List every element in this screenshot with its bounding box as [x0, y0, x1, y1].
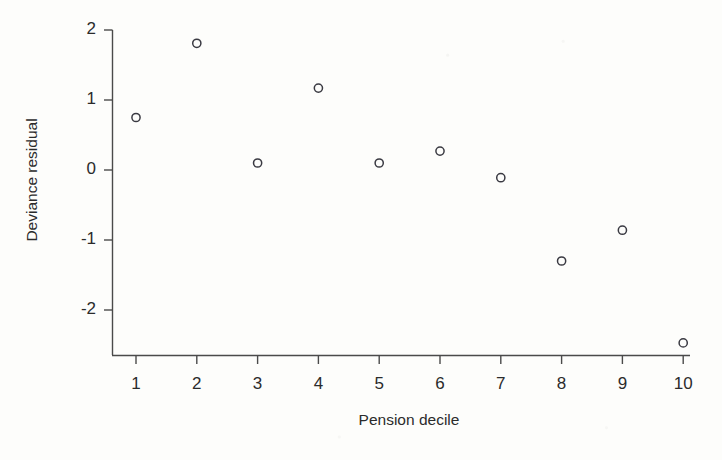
x-tick-label-5: 5	[374, 374, 383, 393]
y-tick-label-0: 0	[87, 159, 96, 178]
scatter-plot-figure: 2 1 0 -1 -2 Deviance residual 1 2 3 4 5	[0, 0, 722, 460]
y-axis-title: Deviance residual	[23, 118, 40, 241]
x-tick-label-2: 2	[192, 374, 201, 393]
x-tick-label-6: 6	[435, 374, 444, 393]
y-tick-label-2: 2	[87, 19, 96, 38]
x-tick-label-4: 4	[314, 374, 323, 393]
y-tick-label-neg1: -1	[81, 229, 96, 248]
chart-canvas: 2 1 0 -1 -2 Deviance residual 1 2 3 4 5	[0, 0, 722, 460]
x-tick-label-3: 3	[253, 374, 262, 393]
y-tick-label-neg2: -2	[81, 299, 96, 318]
x-tick-label-10: 10	[674, 374, 693, 393]
chart-background	[0, 0, 722, 460]
x-tick-label-9: 9	[618, 374, 627, 393]
x-axis-title: Pension decile	[359, 411, 460, 428]
x-tick-label-1: 1	[131, 374, 140, 393]
y-tick-label-1: 1	[87, 89, 96, 108]
x-tick-label-8: 8	[557, 374, 566, 393]
x-tick-label-7: 7	[496, 374, 505, 393]
